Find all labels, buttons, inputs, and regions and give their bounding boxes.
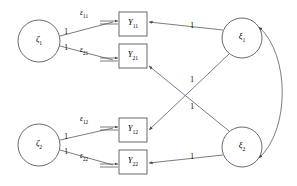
path-xi1-Y12 [149, 54, 229, 130]
node-label-zeta2: ζ2 [36, 139, 42, 150]
node-label-Y22: Y22 [128, 156, 138, 167]
node-label-xi1: ξ1 [239, 32, 245, 43]
error-label-eps12: ε12 [80, 115, 88, 125]
node-label-Y11: Y11 [128, 18, 138, 29]
xi1-xi2-covariance-arc [259, 27, 282, 158]
coefficient-xi1-Y11: 1 [190, 22, 194, 30]
error-label-eps22: ε22 [80, 152, 88, 162]
coefficient-zeta1-Y11: 1 [64, 28, 68, 36]
node-label-xi2: ξ2 [239, 141, 245, 152]
sem-path-diagram: ζ1 ζ2 ξ1 ξ2 Y11 Y21 Y12 Y22 ε11 ε21 ε12 … [0, 0, 297, 186]
path-xi1-Y11 [149, 22, 223, 30]
coefficient-zeta2-Y12: 1 [64, 133, 68, 141]
coefficient-xi2-Y21: 1 [190, 103, 194, 111]
error-label-eps21: ε21 [80, 46, 88, 56]
node-label-Y21: Y21 [128, 50, 138, 61]
diagram-canvas [0, 0, 297, 186]
coefficient-xi1-Y12: 1 [190, 76, 194, 84]
coefficient-zeta2-Y22: 1 [64, 148, 68, 156]
node-label-zeta1: ζ1 [36, 35, 42, 46]
node-label-Y12: Y12 [128, 124, 138, 135]
path-xi2-Y22 [149, 155, 223, 163]
coefficient-xi2-Y22: 1 [190, 153, 194, 161]
error-label-eps11: ε11 [80, 9, 88, 19]
path-xi2-Y21 [149, 66, 229, 131]
coefficient-zeta1-Y21: 1 [64, 44, 68, 52]
